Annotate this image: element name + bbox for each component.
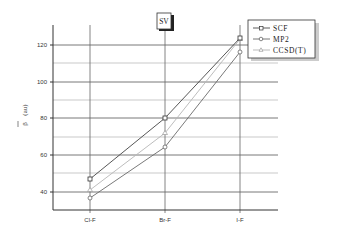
- ytick-60: 60: [40, 152, 47, 158]
- y-axis-label: β (au): [18, 104, 29, 127]
- circle-marker: [88, 196, 92, 200]
- square-marker: [238, 36, 242, 40]
- legend-label-ccsdt: CCSD(T): [273, 46, 306, 55]
- chart-title: SV: [159, 17, 169, 26]
- circle-marker: [238, 50, 242, 54]
- ytick-100: 100: [37, 79, 48, 85]
- y-tick-labels: 120 100 80 60 40: [37, 42, 48, 195]
- square-marker: [88, 177, 92, 181]
- triangle-marker: [88, 188, 93, 192]
- legend-label-scf: SCF: [273, 24, 288, 33]
- x-tick-labels: Cl-F Br-F I-F: [84, 217, 244, 223]
- chart: 120 100 80 60 40 β (au) Cl-F Br-F I-F: [0, 0, 337, 237]
- chart-title-box: SV: [157, 13, 174, 31]
- square-marker: [163, 116, 167, 120]
- ylabel-unit: (au): [21, 104, 29, 116]
- legend: SCF MP2 CCSD(T): [248, 20, 319, 61]
- circle-icon: [259, 37, 263, 41]
- ytick-80: 80: [40, 115, 47, 121]
- ytick-120: 120: [37, 42, 48, 48]
- circle-marker: [163, 145, 167, 149]
- xtick-clf: Cl-F: [84, 217, 96, 223]
- ylabel-beta: β: [21, 122, 29, 126]
- xtick-brf: Br-F: [159, 217, 171, 223]
- xtick-if: I-F: [236, 217, 244, 223]
- square-icon: [260, 27, 264, 31]
- legend-label-mp2: MP2: [273, 35, 289, 44]
- ytick-40: 40: [40, 189, 47, 195]
